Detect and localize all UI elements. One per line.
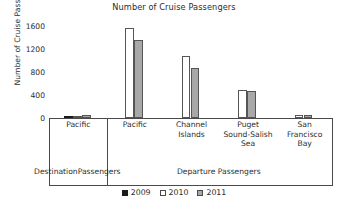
category-label: PugetSound-SalishSea bbox=[220, 118, 277, 185]
bar-2010 bbox=[125, 28, 134, 118]
bar-2010 bbox=[182, 56, 191, 118]
legend-item-2010: 2010 bbox=[160, 188, 189, 197]
category-label-text: Pacific bbox=[66, 120, 90, 130]
bar-2011 bbox=[134, 40, 143, 118]
category-label: SanFranciscoBay bbox=[276, 118, 333, 185]
bar-group bbox=[162, 26, 219, 118]
category-label-text: PugetSound-SalishSea bbox=[224, 120, 273, 149]
bar-group bbox=[219, 26, 276, 118]
bar-group bbox=[275, 26, 332, 118]
bar-2011 bbox=[247, 91, 256, 118]
category-divider bbox=[220, 118, 221, 185]
y-tick-label: 0 bbox=[40, 114, 45, 123]
category-label: Pacific bbox=[50, 118, 107, 185]
y-tick-label: 1600 bbox=[26, 22, 45, 31]
legend-item-2009: 2009 bbox=[122, 188, 151, 197]
plot-area: 040080012001600 bbox=[49, 26, 332, 118]
legend-swatch-icon bbox=[197, 190, 203, 196]
category-label: Pacific bbox=[107, 118, 164, 185]
legend-label: 2010 bbox=[169, 188, 189, 197]
bar-2011 bbox=[191, 68, 200, 118]
category-divider bbox=[107, 118, 108, 185]
y-tick-label: 400 bbox=[31, 91, 46, 100]
bar-group bbox=[49, 26, 106, 118]
y-tick-label: 1200 bbox=[26, 45, 45, 54]
category-label-text: ChannelIslands bbox=[176, 120, 207, 139]
category-divider bbox=[163, 118, 164, 185]
legend-label: 2009 bbox=[131, 188, 151, 197]
bar-2010 bbox=[238, 90, 247, 118]
category-divider bbox=[276, 118, 277, 185]
legend-swatch-icon bbox=[122, 190, 128, 196]
legend-swatch-icon bbox=[160, 190, 166, 196]
chart-title: Number of Cruise Passengers bbox=[0, 2, 348, 12]
legend-label: 2011 bbox=[206, 188, 226, 197]
cruise-passengers-chart: Number of Cruise Passengers Number of Cr… bbox=[0, 0, 348, 208]
category-label-text: Pacific bbox=[123, 120, 147, 130]
category-label-text: SanFranciscoBay bbox=[287, 120, 322, 149]
category-label: ChannelIslands bbox=[163, 118, 220, 185]
legend-item-2011: 2011 bbox=[197, 188, 226, 197]
chart-legend: 200920102011 bbox=[0, 188, 348, 197]
category-labels: PacificPacificChannelIslandsPugetSound-S… bbox=[49, 118, 333, 186]
y-axis-label: Number of Cruise Passengers bbox=[13, 0, 22, 91]
y-tick-label: 800 bbox=[31, 68, 46, 77]
bar-group bbox=[106, 26, 163, 118]
